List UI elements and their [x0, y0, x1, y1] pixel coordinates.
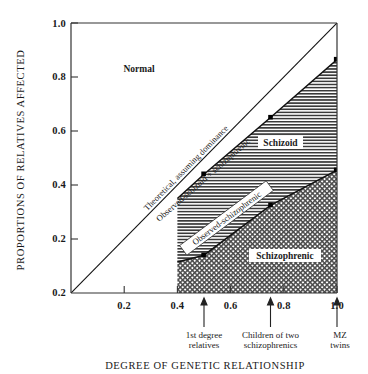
- annotation-children-line1: Children of two: [242, 330, 299, 340]
- annotation-mz-twins-line2: twins: [330, 340, 350, 350]
- x-tick-label-3: 0.8: [277, 300, 291, 311]
- data-marker: [268, 115, 273, 120]
- data-marker: [201, 253, 206, 258]
- annotation-1st-degree-line2: relatives: [189, 340, 220, 350]
- annotation-arrows: [201, 298, 340, 327]
- data-marker: [334, 168, 339, 173]
- annotation-mz-twins-line1: MZ: [333, 330, 347, 340]
- y-tick-label-2: 0.6: [52, 125, 66, 136]
- annotation-children-line2: schizophrenics: [244, 340, 298, 350]
- y-tick-label-1: 0.4: [52, 179, 66, 190]
- region-label-schizoid-group: Schizoid: [258, 136, 303, 149]
- y-tick-label-0: 0.2: [52, 287, 66, 298]
- x-tick-label-2: 0.6: [224, 300, 238, 311]
- x-tick-label-1: 0.4: [171, 300, 185, 311]
- annotation-1st-degree-line1: 1st degree: [186, 330, 223, 340]
- y-tick-label-3: 0.8: [52, 71, 66, 82]
- genetic-relationship-chart: 0.2 0.2 0.4 0.6 0.8 1.0 0.2 0.4 0.6 0.8 …: [0, 0, 368, 374]
- region-label-normal: Normal: [123, 64, 154, 74]
- region-label-schizophrenic-group: Schizophrenic: [249, 249, 321, 262]
- data-marker: [334, 57, 339, 62]
- chart-figure: 0.2 0.2 0.4 0.6 0.8 1.0 0.2 0.4 0.6 0.8 …: [0, 0, 368, 374]
- x-axis-title: DEGREE OF GENETIC RELATIONSHIP: [105, 360, 305, 371]
- region-label-schizophrenic: Schizophrenic: [256, 251, 313, 261]
- region-label-schizoid: Schizoid: [263, 138, 298, 148]
- x-tick-label-0: 0.2: [117, 300, 131, 311]
- data-marker: [268, 203, 273, 208]
- y-tick-label-0: 0.2: [52, 233, 66, 244]
- y-tick-label-4: 1.0: [52, 18, 66, 29]
- y-axis-title: PROPORTIONS OF RELATIVES AFFECTED: [15, 50, 26, 271]
